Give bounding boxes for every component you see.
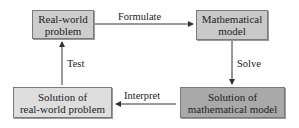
edge-label-formulate: Formulate bbox=[118, 11, 161, 22]
node-label-line1: Real-world bbox=[38, 13, 87, 25]
node-label-line2: model bbox=[202, 25, 262, 37]
edge-label-interpret: Interpret bbox=[124, 90, 160, 101]
node-label-line2: real-world problem bbox=[20, 103, 105, 115]
node-mathematical-model: Mathematical model bbox=[196, 10, 268, 40]
node-label-line2: mathematical model bbox=[188, 103, 278, 115]
node-solution-real-world: Solution of real-world problem bbox=[13, 87, 112, 118]
edge-label-solve: Solve bbox=[237, 58, 261, 69]
node-real-world-problem: Real-world problem bbox=[32, 10, 94, 39]
node-label-line1: Solution of bbox=[20, 91, 105, 103]
node-label-line1: Mathematical bbox=[202, 13, 262, 25]
node-solution-math-model: Solution of mathematical model bbox=[180, 87, 285, 118]
node-label-line1: Solution of bbox=[188, 91, 278, 103]
edge-label-test: Test bbox=[67, 58, 84, 69]
node-label-line2: problem bbox=[38, 25, 87, 37]
